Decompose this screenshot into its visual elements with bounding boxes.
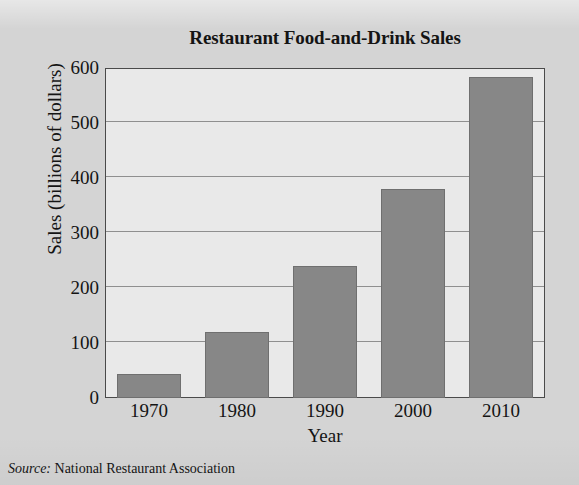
bar-series xyxy=(105,68,545,398)
y-tick-label: 100 xyxy=(47,332,99,354)
source-value: National Restaurant Association xyxy=(51,461,235,476)
bar-2010 xyxy=(469,77,533,398)
x-axis-ticks: 19701980199020002010 xyxy=(105,400,545,426)
x-axis-title: Year xyxy=(105,425,545,447)
bar-1980 xyxy=(205,332,269,398)
y-axis-title: Sales (billions of dollars) xyxy=(44,14,66,304)
source-note: Source: National Restaurant Association xyxy=(8,461,235,477)
source-label: Source: xyxy=(8,461,51,476)
x-tick-label: 1970 xyxy=(109,400,189,422)
bar-2000 xyxy=(381,189,445,398)
chart-figure: Restaurant Food-and-Drink Sales 01002003… xyxy=(0,0,579,485)
bar-1970 xyxy=(117,374,181,398)
y-tick-label: 0 xyxy=(47,387,99,409)
chart-title: Restaurant Food-and-Drink Sales xyxy=(105,27,545,49)
x-tick-label: 2000 xyxy=(373,400,453,422)
x-tick-label: 2010 xyxy=(461,400,541,422)
x-tick-label: 1980 xyxy=(197,400,277,422)
bar-1990 xyxy=(293,266,357,398)
x-tick-label: 1990 xyxy=(285,400,365,422)
